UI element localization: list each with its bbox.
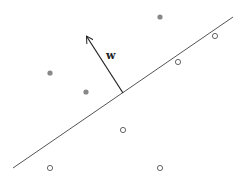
hollow-point [175,59,180,64]
hollow-point [212,33,217,38]
positive-points [47,14,162,94]
negative-points [47,33,217,170]
filled-point [157,14,162,19]
hyperplane-diagram: w [0,0,240,179]
normal-vector-arrow [87,37,123,93]
filled-point [47,70,52,75]
hollow-point [157,165,162,170]
vector-label: w [105,49,116,62]
filled-point [83,89,88,94]
hollow-point [120,127,125,132]
hollow-point [47,165,52,170]
